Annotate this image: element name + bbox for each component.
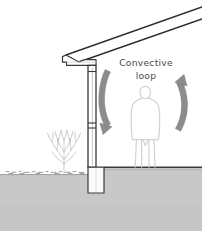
exterior-wall (88, 65, 96, 167)
downdraft-arrow (99, 70, 112, 135)
diagram-canvas: Convective loop (0, 0, 202, 231)
convective-loop-label-line1: Convective (119, 57, 173, 68)
grade-line (0, 171, 88, 174)
roof-slope-lower (79, 19, 202, 62)
shrub (48, 130, 81, 174)
foundation-wall (88, 167, 104, 193)
roof-slope-upper (66, 7, 202, 55)
convective-loop-label: Convective loop (119, 57, 173, 81)
eave-soffit (63, 55, 97, 65)
convective-loop-label-line2: loop (136, 70, 157, 81)
convective-loop-section-drawing: Convective loop (0, 0, 202, 231)
occupant-figure (131, 86, 160, 167)
updraft-arrow (175, 74, 188, 131)
